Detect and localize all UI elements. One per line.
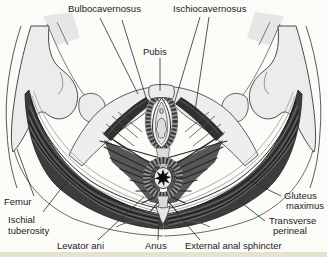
label-femur: Femur bbox=[4, 196, 31, 207]
figure-canvas: Bulbocavernosus Ischiocavernosus Pubis F… bbox=[0, 0, 327, 257]
leader-transverse-perineal bbox=[238, 200, 265, 221]
urethral-opening bbox=[160, 108, 164, 113]
label-ischial-tuberosity-line1: Ischial bbox=[8, 214, 35, 225]
label-pubis: Pubis bbox=[143, 46, 167, 57]
label-transverse-perineal-line2: perineal bbox=[273, 225, 307, 236]
label-levator-ani: Levator ani bbox=[57, 240, 104, 251]
label-ischial-tuberosity-line2: tuberosity bbox=[8, 225, 49, 236]
pubic-symphysis-bone bbox=[149, 85, 175, 100]
leader-femur bbox=[17, 149, 34, 196]
label-anus: Anus bbox=[145, 240, 167, 251]
leader-bulbocavernosus-1 bbox=[100, 18, 138, 94]
label-external-anal-sphincter: External anal sphincter bbox=[185, 240, 282, 251]
page-bottom-band bbox=[0, 252, 327, 257]
anatomy-illustration: Bulbocavernosus Ischiocavernosus Pubis F… bbox=[0, 0, 327, 257]
label-bulbocavernosus: Bulbocavernosus bbox=[68, 3, 141, 14]
label-ischiocavernosus: Ischiocavernosus bbox=[173, 3, 247, 14]
label-gluteus-maximus-line2: maximus bbox=[286, 200, 324, 211]
